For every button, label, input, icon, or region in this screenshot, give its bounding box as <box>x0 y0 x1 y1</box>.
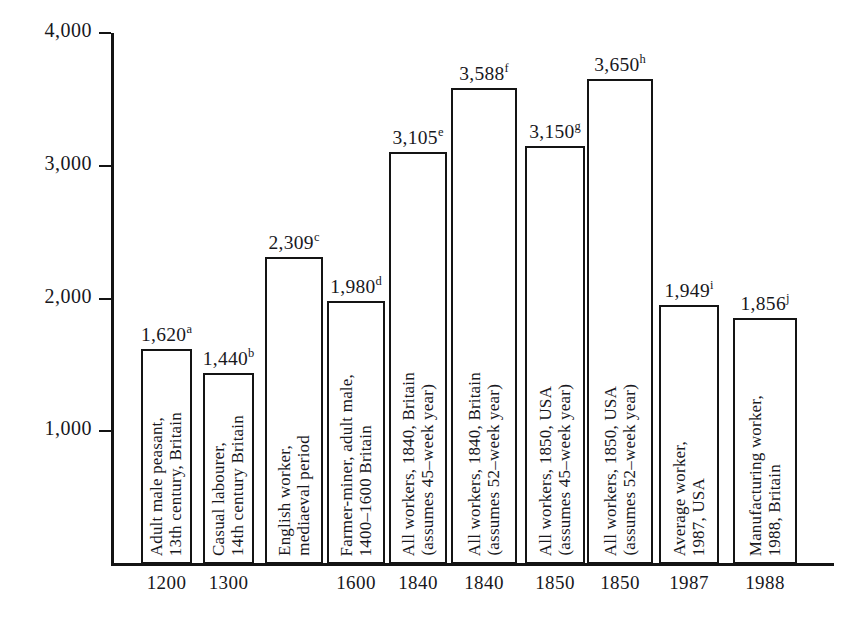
bar-caption-line: All workers, 1840, Britain <box>466 372 484 556</box>
bar: Average worker,1987, USA <box>659 305 719 564</box>
y-axis-tick-label: 3,000 <box>0 152 92 175</box>
y-axis-tick-label-text: 2,000 <box>0 285 92 308</box>
bar-caption: Manufacturing worker,1988, Britain <box>735 395 795 556</box>
y-axis-tick-label-text: 1,000 <box>0 417 92 440</box>
bar-caption-line: mediaeval period <box>295 435 313 556</box>
bar-value-label: 2,309c <box>269 230 320 254</box>
y-axis-tick-mark <box>99 32 111 34</box>
bar-caption-line: Adult male peasant, <box>148 417 166 556</box>
bar-value-footnote-mark: c <box>314 230 320 244</box>
bar-value-footnote-mark: a <box>186 322 192 336</box>
y-axis-tick-label-text: 4,000 <box>0 19 92 42</box>
bar-caption-line: All workers, 1840, Britain <box>400 372 418 556</box>
bar-caption: Adult male peasant,13th century, Britain <box>143 412 190 556</box>
bar-value-footnote-mark: b <box>248 346 254 360</box>
bar-caption-line: 1987, USA <box>690 478 708 556</box>
bar-caption-line: (assumes 45–week year) <box>419 384 437 556</box>
bar-caption-line: Farmer-miner, adult male, <box>338 374 356 556</box>
bar-value-label: 3,150g <box>529 119 581 143</box>
bar-value-footnote-mark: i <box>710 278 713 292</box>
bar-chart: 1,0002,0003,0004,000 Adult male peasant,… <box>0 0 845 618</box>
bar-caption-line: Average worker, <box>671 441 689 556</box>
bar-caption-line: (assumes 45–week year) <box>556 384 574 556</box>
bar-caption-line: (assumes 52–week year) <box>485 384 503 556</box>
bar-value-label: 1,856j <box>741 291 790 315</box>
bar-caption-line: 1988, Britain <box>766 464 784 556</box>
y-axis-tick-label: 1,000 <box>0 417 92 440</box>
bar: Farmer-miner, adult male,1400–1600 Brita… <box>327 301 385 564</box>
bar-caption-line: 14th century Britain <box>229 415 247 556</box>
bar-caption: All workers, 1850, USA(assumes 45–week y… <box>527 384 583 556</box>
bar-value-footnote-mark: d <box>376 274 382 288</box>
y-axis-tick-mark <box>99 298 111 300</box>
bar: All workers, 1850, USA(assumes 52–week y… <box>587 79 653 564</box>
bar-caption-line: 1400–1600 Britain <box>357 425 375 556</box>
bar-value-footnote-mark: f <box>505 61 509 75</box>
y-axis-tick-mark <box>99 165 111 167</box>
bar: Casual labourer,14th century Britain <box>203 373 254 564</box>
x-axis-label: 1850 <box>580 572 660 594</box>
bar-value-label: 1,440b <box>203 346 255 370</box>
bar: All workers, 1850, USA(assumes 45–week y… <box>525 146 585 564</box>
bar-value-footnote-mark: j <box>786 291 789 305</box>
bar-caption: Casual labourer,14th century Britain <box>205 415 252 556</box>
bar-caption: All workers, 1840, Britain(assumes 45–we… <box>391 372 445 556</box>
x-axis-label: 1988 <box>725 572 805 594</box>
bar-caption: Average worker,1987, USA <box>661 441 717 556</box>
y-axis-tick-label: 4,000 <box>0 19 92 42</box>
bar-value-label: 3,650h <box>594 52 646 76</box>
bar-caption: English worker,mediaeval period <box>267 435 321 556</box>
x-axis-label: 1840 <box>444 572 524 594</box>
bar-caption-line: (assumes 52–week year) <box>621 384 639 556</box>
bar-caption: All workers, 1850, USA(assumes 52–week y… <box>589 384 651 556</box>
bar-value-label: 1,949i <box>665 278 714 302</box>
x-axis-label: 1300 <box>189 572 269 594</box>
bar-value-label: 1,620a <box>141 322 192 346</box>
bar: Manufacturing worker,1988, Britain <box>733 318 797 564</box>
x-axis-label: 1987 <box>649 572 729 594</box>
y-axis-tick-label: 2,000 <box>0 285 92 308</box>
y-axis-line <box>111 33 114 566</box>
bar-value-footnote-mark: g <box>575 119 581 133</box>
bar-caption-line: All workers, 1850, USA <box>537 386 555 556</box>
bar-value-label: 3,105e <box>393 125 444 149</box>
bar-caption-line: 13th century, Britain <box>167 412 185 556</box>
bar-value-label: 3,588f <box>459 61 509 85</box>
bar: All workers, 1840, Britain(assumes 45–we… <box>389 152 447 564</box>
bar-caption: Farmer-miner, adult male,1400–1600 Brita… <box>329 374 383 556</box>
bar: English worker,mediaeval period <box>265 257 323 564</box>
y-axis-tick-mark <box>99 430 111 432</box>
bar: All workers, 1840, Britain(assumes 52–we… <box>451 88 517 564</box>
bar-caption-line: Casual labourer, <box>210 442 228 556</box>
bar-caption-line: All workers, 1850, USA <box>602 386 620 556</box>
bar-value-footnote-mark: h <box>640 52 646 66</box>
bar-value-label: 1,980d <box>330 274 382 298</box>
bar-caption-line: English worker, <box>276 445 294 556</box>
bar-value-footnote-mark: e <box>438 125 444 139</box>
bar-caption-line: Manufacturing worker, <box>747 395 765 556</box>
y-axis-tick-label-text: 3,000 <box>0 152 92 175</box>
bar: Adult male peasant,13th century, Britain <box>141 349 192 564</box>
bar-caption: All workers, 1840, Britain(assumes 52–we… <box>453 372 515 556</box>
